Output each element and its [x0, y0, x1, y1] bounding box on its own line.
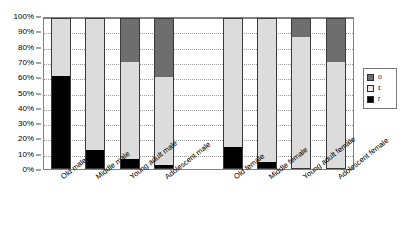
y-axis: 0%10%20%30%40%50%60%70%80%90%100%	[0, 17, 41, 170]
legend-swatch-icon	[367, 74, 374, 81]
y-axis-tick-label: 100%	[14, 13, 34, 21]
y-axis-tick-label: 40%	[18, 105, 34, 113]
bar-slot	[44, 18, 78, 169]
y-axis-tick-mark	[36, 170, 41, 171]
bar-slot	[216, 18, 250, 169]
bar-slot	[78, 18, 112, 169]
y-axis-tick-mark	[36, 93, 41, 94]
x-axis: Old maleMiddle maleYoung adult maleAdole…	[43, 170, 354, 239]
y-axis-tick-mark	[36, 32, 41, 33]
y-axis-tick-label: 70%	[18, 59, 34, 67]
bar-slot	[250, 18, 284, 169]
y-axis-tick-label: 60%	[18, 74, 34, 82]
legend-item-label: ɪ	[378, 85, 380, 92]
legend-item-label: r	[378, 96, 380, 103]
y-axis-tick-mark	[36, 124, 41, 125]
y-axis-tick-mark	[36, 47, 41, 48]
stacked-bar[interactable]	[85, 18, 105, 169]
legend-swatch-icon	[367, 96, 374, 103]
y-axis-tick-label: 10%	[18, 151, 34, 159]
y-axis-tick-mark	[36, 78, 41, 79]
stacked-bar[interactable]	[51, 18, 71, 169]
y-axis-tick-mark	[36, 17, 41, 18]
bar-segment	[224, 19, 242, 147]
stacked-bar[interactable]	[257, 18, 277, 169]
bar-segment	[52, 19, 70, 76]
bar-segment	[121, 62, 139, 159]
legend-item[interactable]: r	[367, 94, 394, 105]
stacked-bar[interactable]	[223, 18, 243, 169]
bar-segment	[292, 19, 310, 37]
y-axis-tick-mark	[36, 62, 41, 63]
y-axis-tick-label: 20%	[18, 135, 34, 143]
y-axis-tick-mark	[36, 139, 41, 140]
bar-segment	[86, 19, 104, 150]
y-axis-tick-label: 80%	[18, 44, 34, 52]
bar-segment	[258, 19, 276, 162]
stacked-bar-chart: 0%10%20%30%40%50%60%70%80%90%100% Old ma…	[0, 0, 403, 239]
y-axis-tick-label: 50%	[18, 90, 34, 98]
legend-item-label: ʊ	[378, 74, 382, 81]
chart-legend: ʊɪr	[363, 68, 397, 109]
bar-segment	[224, 147, 242, 168]
bar-segment	[52, 76, 70, 168]
legend-item[interactable]: ɪ	[367, 83, 394, 94]
bar-segment	[121, 19, 139, 62]
bar-slot	[113, 18, 147, 169]
y-axis-tick-mark	[36, 108, 41, 109]
bar-segment	[327, 19, 345, 62]
legend-item[interactable]: ʊ	[367, 72, 394, 83]
y-axis-tick-mark	[36, 154, 41, 155]
stacked-bar[interactable]	[120, 18, 140, 169]
bar-segment	[86, 150, 104, 168]
y-axis-tick-label: 30%	[18, 120, 34, 128]
y-axis-tick-label: 0%	[22, 166, 34, 174]
bar-segment	[155, 19, 173, 77]
legend-swatch-icon	[367, 85, 374, 92]
y-axis-tick-label: 90%	[18, 28, 34, 36]
